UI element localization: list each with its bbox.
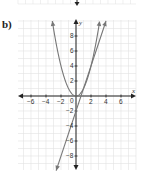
line-arrow-icon — [102, 21, 106, 26]
y-tick-label: 2 — [70, 77, 74, 84]
y-axis-label: y — [78, 19, 83, 27]
parabola-arrow-icon — [51, 21, 56, 26]
y-tick-label: 4 — [70, 62, 74, 69]
y-tick-label: 6 — [70, 47, 74, 54]
y-tick-label: −6 — [66, 137, 74, 144]
y-tick-label: −4 — [66, 122, 74, 129]
grid — [18, 20, 136, 170]
x-tick-label: 2 — [89, 98, 93, 105]
y-tick-label: −8 — [66, 152, 74, 159]
left-arrow-icon — [18, 94, 23, 99]
x-tick-label: −2 — [57, 98, 65, 105]
previous-graph-remnant — [18, 0, 136, 6]
x-tick-label: 4 — [104, 98, 108, 105]
y-axis — [74, 19, 79, 170]
x-tick-label: 6 — [119, 98, 123, 105]
up-arrow-icon — [74, 19, 79, 24]
origin-label: 0 — [70, 97, 74, 104]
y-tick-label: 8 — [70, 32, 74, 39]
parabola-arrow-icon — [97, 21, 102, 26]
graph: y x 0 −6 −4 −2 2 4 6 8 6 4 2 −2 −4 −6 −8 — [0, 0, 146, 182]
line-arrow-icon — [56, 165, 60, 170]
down-arrow-icon — [74, 165, 79, 170]
x-tick-label: −6 — [27, 98, 35, 105]
y-tick-label: −2 — [66, 107, 74, 114]
x-tick-label: −4 — [42, 98, 50, 105]
